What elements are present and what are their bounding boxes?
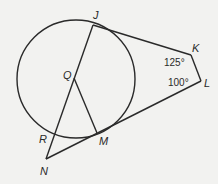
label-r: R: [39, 133, 47, 145]
segment-qm: [74, 78, 97, 133]
segment-kl: [191, 55, 201, 81]
label-l: L: [204, 77, 210, 89]
segment-jk: [93, 25, 191, 55]
angle-k-label: 125°: [164, 57, 185, 68]
label-q: Q: [63, 69, 72, 81]
label-k: K: [192, 42, 200, 54]
geometry-diagram: J K L Q R M N 125° 100°: [0, 0, 218, 184]
label-m: M: [99, 135, 109, 147]
label-j: J: [92, 9, 99, 21]
angle-l-label: 100°: [168, 77, 189, 88]
circle-q: [17, 20, 135, 138]
label-n: N: [40, 165, 48, 177]
